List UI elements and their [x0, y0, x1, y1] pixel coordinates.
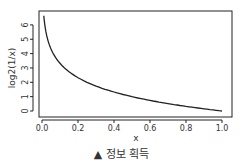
y-tick-label: 4: [21, 51, 30, 56]
x-tick-label: 0.0: [36, 124, 49, 133]
x-tick-label: 0.2: [72, 124, 85, 133]
y-tick-label: 5: [21, 37, 30, 42]
y-tick-label: 0: [21, 108, 30, 113]
y-tick-label: 3: [21, 65, 30, 70]
y-tick-label: 2: [21, 80, 30, 85]
x-tick-label: 0.6: [144, 124, 157, 133]
y-axis: 0123456: [21, 22, 33, 113]
x-axis-label: x: [133, 133, 139, 143]
y-tick-label: 6: [21, 22, 30, 27]
plot-frame: [39, 11, 232, 117]
y-tick-label: 1: [21, 94, 30, 99]
x-axis: 0.00.20.40.60.81.0: [36, 120, 229, 133]
y-axis-label: log2(1/x): [7, 48, 17, 89]
figure-caption: ▲ 정보 획득: [0, 145, 243, 161]
x-tick-label: 1.0: [216, 124, 229, 133]
line-chart: 0123456 0.00.20.40.60.81.0 x log2(1/x): [0, 0, 243, 145]
series-line: [44, 16, 222, 111]
x-tick-label: 0.8: [180, 124, 193, 133]
x-tick-label: 0.4: [108, 124, 121, 133]
